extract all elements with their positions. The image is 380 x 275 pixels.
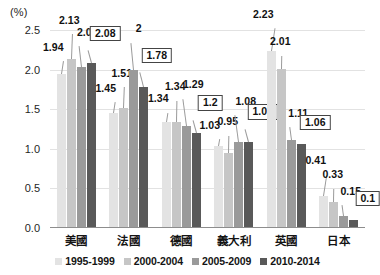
bar[interactable]: 0.41 [319,196,328,228]
bar-fill [129,70,138,228]
label-leader-line [123,87,125,108]
bar-value-label: 0.41 [306,155,326,166]
bar-fill [277,69,286,228]
bar[interactable]: 1.11 [287,140,296,228]
bar-fill [244,142,253,228]
legend-swatch [124,258,131,265]
legend-swatch [55,258,62,265]
label-leader-line [182,99,187,126]
bar[interactable]: 1.09 [244,142,253,228]
label-leader-line [281,56,282,69]
y-axis-tick: 0.0 [25,222,40,234]
bar-fill [172,122,181,228]
bar-fill [329,202,338,228]
bar-value-label: 2.23 [253,9,273,20]
y-axis-tick-labels: 0.00.51.01.52.02.5 [0,30,44,228]
x-axis-category: 日本 [313,232,366,252]
bar-fill [267,51,276,228]
label-leader-line [166,113,168,122]
legend-item[interactable]: 2000-2004 [124,255,183,267]
y-axis-unit-label: (%) [10,6,28,18]
bar[interactable]: 0.33 [329,202,338,228]
bar-value-label: 0.1 [355,191,380,207]
label-leader-line [78,46,81,67]
bar[interactable]: 1.45 [109,113,118,228]
bar-fill [319,196,328,228]
bar[interactable]: 1.78 [139,87,148,228]
bar[interactable]: 1.51 [119,108,128,228]
x-axis-category: 法國 [103,232,156,252]
label-leader-line [289,127,292,140]
y-axis-tick: 2.0 [25,64,40,76]
x-axis-category: 美國 [50,232,103,252]
bar-groups: 1.942.132.032.081.451.5121.781.341.341.2… [50,30,365,228]
legend-item[interactable]: 1995-1999 [55,255,114,267]
bar[interactable]: 1.94 [57,74,66,228]
label-leader-line [87,51,91,64]
bar[interactable]: 1.03 [214,146,223,228]
bar-fill [57,74,66,228]
x-axis-line [50,227,365,229]
bar-fill [77,67,86,228]
bar-value-label: 1.34 [148,93,168,104]
bar[interactable]: 2.01 [277,69,286,228]
bar-group: 1.942.132.032.08 [50,30,103,228]
label-leader-line [113,102,116,113]
bar-group: 1.451.5121.78 [103,30,156,228]
label-leader-line [228,136,229,153]
legend-label: 2010-2014 [270,255,319,267]
bar-fill [287,140,296,228]
legend-swatch [192,258,199,265]
legend-item[interactable]: 2005-2009 [192,255,251,267]
label-leader-line [140,72,145,87]
bar-fill [67,59,76,228]
label-leader-line [342,205,344,216]
bar-fill [182,126,191,228]
bar[interactable]: 2.13 [67,59,76,228]
label-leader-line [333,189,334,202]
bar-value-label: 2.01 [270,36,290,47]
bar[interactable]: 1.29 [182,126,191,228]
bar-value-label: 0.33 [323,169,343,180]
bar[interactable]: 1.34 [172,122,181,228]
bar[interactable]: 1.2 [192,133,201,228]
bar-value-label: 2.13 [59,15,79,26]
y-axis-tick: 0.5 [25,182,40,194]
bar[interactable]: 0.95 [224,153,233,228]
label-leader-line [245,129,249,142]
bar[interactable]: 1.08 [234,142,243,228]
bar-fill [162,122,171,228]
bar-value-label: 1.45 [96,83,116,94]
chart-legend: 1995-19992000-20042005-20092010-2014 [0,255,375,267]
bar-fill [109,113,118,228]
bar[interactable]: 2 [129,70,138,228]
label-leader-line [71,34,73,59]
bar-fill [119,108,128,228]
label-leader-line [61,61,64,74]
y-axis-tick: 2.5 [25,24,40,36]
label-leader-line [192,120,196,133]
x-axis-category-labels: 美國法國德國義大利英國日本 [50,232,365,252]
x-axis-category: 英國 [260,232,313,252]
legend-label: 2005-2009 [202,255,251,267]
bar-value-label: 2 [136,23,142,34]
bar-group: 0.410.330.150.1 [313,30,366,228]
x-axis-category: 義大利 [208,232,261,252]
legend-label: 2000-2004 [134,255,183,267]
x-axis-category: 德國 [155,232,208,252]
bar-fill [234,142,243,228]
bar-fill [214,146,223,228]
legend-item[interactable]: 2010-2014 [260,255,319,267]
bar[interactable]: 2.03 [77,67,86,228]
bar[interactable]: 1.34 [162,122,171,228]
legend-swatch [260,258,267,265]
y-axis-tick: 1.0 [25,143,40,155]
bar[interactable]: 1.06 [297,144,306,228]
bar-fill [297,144,306,228]
bar[interactable]: 2.23 [267,51,276,228]
bar-fill [192,133,201,228]
bar[interactable]: 2.08 [87,63,96,228]
bar-value-label: 1.29 [183,79,203,90]
label-leader-line [131,43,135,70]
